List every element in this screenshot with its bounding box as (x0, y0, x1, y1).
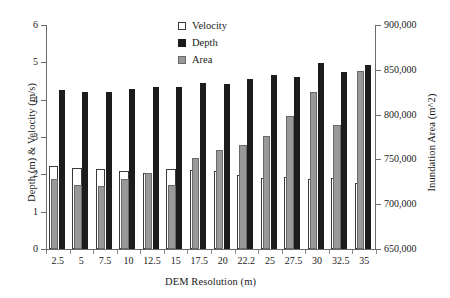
bar-depth (176, 87, 182, 249)
bar-group (46, 25, 70, 249)
y-axis-right-tick-label: 850,000 (384, 65, 432, 75)
bar-area (310, 92, 318, 249)
y-axis-right-tick-label: 900,000 (384, 20, 432, 30)
y-axis-right-tick-label: 700,000 (384, 199, 432, 209)
y-axis-left-tick-label: 4 (18, 95, 38, 105)
x-axis-tick (140, 250, 141, 254)
bar-depth (341, 72, 347, 249)
x-axis-title: DEM Resolution (m) (46, 276, 375, 287)
area-swatch-icon (178, 56, 186, 64)
x-axis-tick-label: 10 (117, 256, 141, 266)
bar-depth (129, 89, 135, 249)
y-axis-right-tick (376, 25, 381, 26)
y-axis-right-tick (376, 115, 381, 116)
chart-figure: Depth (m) & Velocity (m/s) Inundation Ar… (0, 0, 450, 298)
bar-area (333, 125, 341, 249)
x-axis-tick (211, 250, 212, 254)
legend-item-area: Area (178, 52, 227, 68)
x-axis-tick (117, 250, 118, 254)
x-axis-tick (305, 250, 306, 254)
x-axis-tick (258, 250, 259, 254)
legend-item-depth: Depth (178, 35, 227, 51)
bar-depth (271, 75, 277, 249)
bar-area (98, 186, 106, 249)
y-axis-right-tick-label: 650,000 (384, 244, 432, 254)
bar-area (168, 185, 176, 250)
legend-label-velocity: Velocity (192, 21, 227, 32)
x-axis-tick-label: 2.5 (46, 256, 70, 266)
y-axis-left-tick-label: 5 (18, 57, 38, 67)
bar-depth (106, 92, 112, 249)
x-axis-tick (282, 250, 283, 254)
bar-depth (247, 79, 253, 249)
bar-depth (200, 83, 206, 249)
x-axis-tick-label: 12.5 (140, 256, 164, 266)
y-axis-right-tick-label: 800,000 (384, 110, 432, 120)
bar-group (258, 25, 282, 249)
x-axis-tick-label: 7.5 (93, 256, 117, 266)
bar-area (74, 185, 82, 250)
bar-group (93, 25, 117, 249)
y-axis-right-tick (376, 204, 381, 205)
y-axis-left-tick-label: 0 (18, 244, 38, 254)
x-axis-tick-label: 30 (305, 256, 329, 266)
legend-label-depth: Depth (192, 38, 218, 49)
x-axis-tick-label: 15 (164, 256, 188, 266)
bar-area (216, 150, 224, 249)
x-axis-tick-label: 35 (352, 256, 376, 266)
x-axis-tick-label: 17.5 (187, 256, 211, 266)
bar-group (235, 25, 259, 249)
bar-area (51, 179, 59, 249)
bar-area (357, 71, 365, 249)
y-axis-left-tick-label: 6 (18, 20, 38, 30)
bar-group (117, 25, 141, 249)
bar-area (286, 116, 294, 250)
x-axis-tick-label: 22.2 (235, 256, 259, 266)
bar-depth (153, 87, 159, 249)
x-axis-tick (329, 250, 330, 254)
bar-depth (224, 84, 230, 249)
x-axis-tick (235, 250, 236, 254)
bar-depth (365, 65, 371, 249)
x-axis-tick (376, 250, 377, 254)
bar-area (192, 158, 200, 249)
x-axis-tick-label: 32.5 (329, 256, 353, 266)
bar-group (329, 25, 353, 249)
bar-group (140, 25, 164, 249)
y-axis-right-tick-label: 750,000 (384, 154, 432, 164)
depth-swatch-icon (178, 39, 186, 47)
y-axis-right-tick (376, 159, 381, 160)
bar-area (263, 136, 271, 249)
bar-depth (82, 92, 88, 249)
y-axis-left-tick-label: 1 (18, 207, 38, 217)
bar-group (352, 25, 376, 249)
x-axis-tick (46, 250, 47, 254)
x-axis-tick (70, 250, 71, 254)
bar-group (70, 25, 94, 249)
y-axis-left-tick-label: 3 (18, 132, 38, 142)
x-axis-tick (164, 250, 165, 254)
velocity-swatch-icon (178, 22, 186, 30)
bar-area (239, 145, 247, 249)
bar-group (305, 25, 329, 249)
x-axis-tick (93, 250, 94, 254)
x-axis-tick-label: 27.5 (282, 256, 306, 266)
y-axis-right-title: Inundation Area (m^2) (426, 28, 437, 258)
x-axis-tick (352, 250, 353, 254)
y-axis-right-tick (376, 70, 381, 71)
bar-group (282, 25, 306, 249)
chart-legend: Velocity Depth Area (178, 18, 227, 69)
x-axis-tick (187, 250, 188, 254)
x-axis-tick-label: 20 (211, 256, 235, 266)
bar-depth (318, 63, 324, 249)
y-axis-left-tick-label: 2 (18, 169, 38, 179)
bar-depth (294, 77, 300, 249)
bar-depth (59, 90, 65, 249)
x-axis-tick-label: 5 (70, 256, 94, 266)
legend-label-area: Area (192, 55, 212, 66)
bar-area (145, 173, 153, 249)
x-axis-tick-label: 25 (258, 256, 282, 266)
legend-item-velocity: Velocity (178, 18, 227, 34)
bar-area (121, 179, 129, 249)
